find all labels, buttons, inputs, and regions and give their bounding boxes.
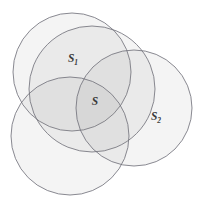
label-s: S: [92, 95, 98, 107]
venn-diagram-canvas: S1 S S2: [0, 0, 203, 203]
label-s1-subscript: 1: [74, 58, 78, 67]
label-s-text: S: [92, 95, 98, 107]
label-s2-subscript: 2: [156, 116, 161, 125]
venn-diagram-container: S1 S S2: [0, 0, 203, 203]
s2-circle: [76, 50, 192, 166]
